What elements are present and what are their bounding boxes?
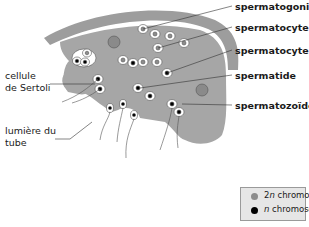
label-spermatocyte-1: spermatocyte 1 xyxy=(235,22,309,34)
label-spermatogonie: spermatogonie xyxy=(235,1,309,13)
label-spermatozoide: spermatozoïde xyxy=(235,100,309,112)
label-lumen-line2: tube xyxy=(5,137,27,149)
sertoli-nucleus xyxy=(196,84,208,96)
legend-2n-label: 2n chromosomes xyxy=(264,190,309,200)
legend-n-dot-icon xyxy=(251,207,258,214)
label-sertoli-line1: cellule xyxy=(5,70,36,82)
label-spermatocyte-2: spermatocyte 2 xyxy=(235,45,309,57)
label-lumen-line1: lumière du xyxy=(5,125,56,137)
legend-2n-dot-icon xyxy=(251,193,258,200)
legend-n-label: n chromosomes xyxy=(264,204,309,214)
sertoli-nucleus xyxy=(108,36,120,48)
label-spermatide: spermatide xyxy=(235,70,296,82)
label-sertoli-line2: de Sertoli xyxy=(5,82,51,94)
